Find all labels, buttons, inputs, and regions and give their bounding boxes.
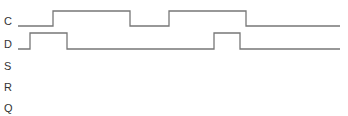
waveform-c [18,11,340,26]
waveform-d [18,33,340,49]
waveform-canvas [0,0,348,116]
